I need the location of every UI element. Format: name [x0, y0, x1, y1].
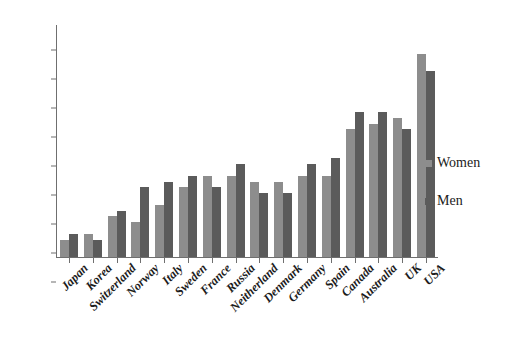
- bar-men-germany: [307, 164, 316, 257]
- x-axis-labels: JapanKoreaSwitzerlandNorwayItalySwedenFr…: [57, 261, 438, 356]
- legend-swatch-icon: [425, 160, 432, 167]
- bar-women-japan: [60, 240, 69, 257]
- bar-men-france: [212, 187, 221, 257]
- y-axis-tick-mark: [51, 253, 56, 254]
- bar-group: [414, 25, 438, 257]
- bar-women-italy: [155, 205, 164, 257]
- bar-men-uk: [402, 129, 411, 257]
- bar-group: [343, 25, 367, 257]
- y-axis-tick-mark: [51, 195, 56, 196]
- bar-group: [152, 25, 176, 257]
- bar-men-switzerland: [117, 211, 126, 257]
- bar-women-australia: [369, 124, 378, 257]
- legend-label: Men: [437, 193, 463, 209]
- bar-group: [176, 25, 200, 257]
- legend-item-women: Women: [425, 155, 480, 171]
- bar-group: [390, 25, 414, 257]
- bar-group: [105, 25, 129, 257]
- bar-group: [319, 25, 343, 257]
- bar-women-norway: [131, 222, 140, 257]
- bar-group: [248, 25, 272, 257]
- bar-women-canada: [346, 129, 355, 257]
- bar-women-germany: [298, 176, 307, 257]
- x-axis-label-uk: UK: [402, 261, 425, 284]
- bar-men-sweden: [188, 176, 197, 257]
- bar-group: [200, 25, 224, 257]
- bar-chart: 4035302520151050 JapanKoreaSwitzerlandNo…: [0, 0, 515, 363]
- bar-men-korea: [93, 240, 102, 257]
- bar-women-switzerland: [108, 216, 117, 257]
- bar-series-container: [57, 25, 438, 257]
- bar-group: [224, 25, 248, 257]
- bar-group: [57, 25, 81, 257]
- bar-group: [128, 25, 152, 257]
- bar-men-norway: [140, 187, 149, 257]
- bar-women-korea: [84, 234, 93, 257]
- y-axis-tick-mark: [51, 282, 56, 283]
- bar-men-denmark: [283, 193, 292, 257]
- bar-women-uk: [393, 118, 402, 257]
- legend-item-men: Men: [425, 193, 480, 209]
- bar-women-sweden: [179, 187, 188, 257]
- bar-men-japan: [69, 234, 78, 257]
- x-axis-line: [56, 257, 438, 258]
- y-axis-tick-mark: [51, 137, 56, 138]
- bar-men-neitherland: [259, 193, 268, 257]
- bar-men-spain: [331, 158, 340, 257]
- legend-swatch-icon: [425, 198, 432, 205]
- y-axis-tick-mark: [51, 166, 56, 167]
- y-axis-tick-mark: [51, 50, 56, 51]
- bar-men-canada: [355, 112, 364, 257]
- bar-men-australia: [378, 112, 387, 257]
- legend-label: Women: [437, 155, 480, 171]
- bar-group: [367, 25, 391, 257]
- bar-women-neitherland: [250, 182, 259, 257]
- bar-group: [271, 25, 295, 257]
- y-axis-tick-mark: [51, 108, 56, 109]
- bar-women-russia: [227, 176, 236, 257]
- bar-group: [295, 25, 319, 257]
- x-axis-label-usa: USA: [421, 261, 449, 289]
- bar-men-italy: [164, 182, 173, 257]
- chart-legend: WomenMen: [425, 155, 480, 209]
- bar-women-france: [203, 176, 212, 257]
- bar-group: [81, 25, 105, 257]
- y-axis-tick-mark: [51, 224, 56, 225]
- bar-women-spain: [322, 176, 331, 257]
- y-axis-tick-mark: [51, 79, 56, 80]
- bar-men-russia: [236, 164, 245, 257]
- bar-women-denmark: [274, 182, 283, 257]
